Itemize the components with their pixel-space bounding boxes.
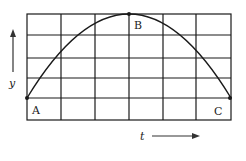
arrowhead-right-icon (192, 133, 200, 139)
arrowhead-up-icon (10, 29, 16, 37)
point-b-label: B (134, 19, 142, 32)
grid (27, 14, 231, 120)
y-axis-label: y (8, 77, 16, 90)
t-axis-label: t (140, 130, 145, 143)
point-a-marker (25, 96, 29, 100)
y-axis-arrow (10, 29, 16, 72)
t-axis-arrow (152, 133, 200, 139)
point-a-label: A (31, 104, 41, 117)
point-c-label: C (214, 105, 222, 118)
point-c-marker (228, 96, 232, 100)
point-b-marker (127, 12, 131, 16)
projectile-diagram: A B C y t (0, 0, 246, 161)
